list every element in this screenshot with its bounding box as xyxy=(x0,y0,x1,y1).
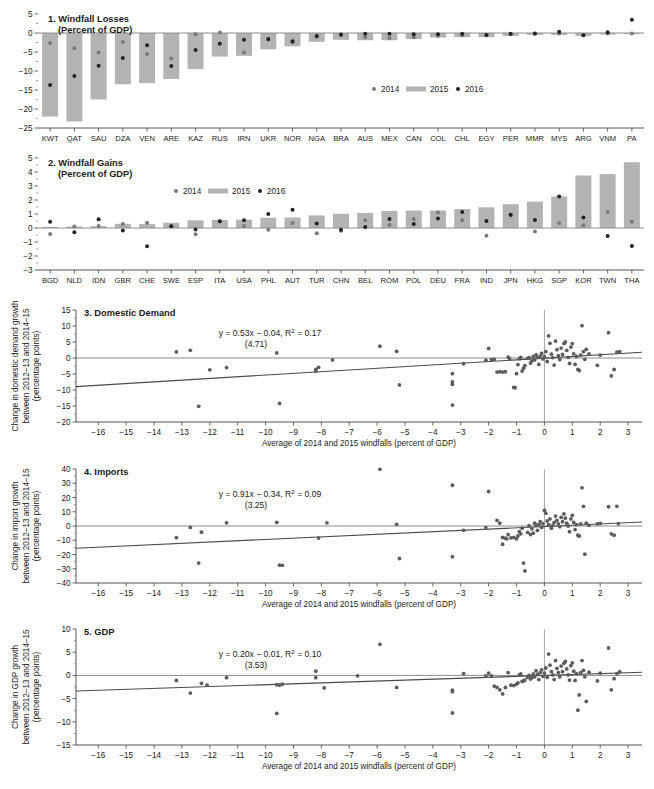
scatter-point xyxy=(451,483,455,487)
scatter-point xyxy=(501,692,505,696)
regression-equation: y = 0.91x − 0.34, R2 = 0.09 xyxy=(219,488,322,500)
y-tick-label: −10 xyxy=(57,718,71,727)
panel-3-domestic-demand: 151050−5−10−15−20−16−15−14−13−12−11−10−9… xyxy=(0,298,654,456)
x-tick-label: −2 xyxy=(484,751,494,760)
marker-2014 xyxy=(291,221,295,225)
scatter-point xyxy=(188,348,192,352)
marker-2016 xyxy=(97,217,101,221)
scatter-point xyxy=(506,533,510,537)
scatter-point xyxy=(595,363,599,367)
chart-4: 403020100−10−20−30−40−16−15−14−13−12−11−… xyxy=(0,457,654,617)
marker-2014 xyxy=(194,232,198,236)
scatter-point xyxy=(569,345,573,349)
scatter-point xyxy=(563,516,567,520)
scatter-point xyxy=(563,660,567,664)
panel-1-windfall-losses: 50−5−10−15−20−25KWTQATSAUDZAVENAREKAZRUS… xyxy=(0,8,654,148)
legend: 201420152016 xyxy=(372,85,484,94)
x-axis-title: Average of 2014 and 2015 windfalls (perc… xyxy=(262,762,456,771)
category-label: USA xyxy=(236,276,253,285)
regression-equation: y = 0.20x − 0.01, R2 = 0.10 xyxy=(219,648,322,660)
scatter-point xyxy=(513,386,517,390)
scatter-point xyxy=(575,672,579,676)
y-tick-label: 0 xyxy=(28,29,33,38)
marker-2014 xyxy=(242,50,246,54)
scatter-point xyxy=(551,356,555,360)
scatter-point xyxy=(566,355,570,359)
scatter-point xyxy=(530,527,534,531)
marker-2016 xyxy=(218,42,222,46)
scatter-point xyxy=(616,522,620,526)
bar xyxy=(42,33,58,117)
x-tick-label: −3 xyxy=(456,589,466,598)
x-tick-label: 2 xyxy=(598,589,603,598)
scatter-point xyxy=(537,678,541,682)
scatter-point xyxy=(547,334,551,338)
scatter-point xyxy=(559,516,563,520)
scatter-point xyxy=(577,693,581,697)
scatter-point xyxy=(508,357,512,361)
chart-2: 543210−1−2−3BGDNLDIDNGBRCHESWEESPITAUSAP… xyxy=(0,152,654,294)
y-tick-label: 10 xyxy=(61,625,71,634)
scatter-point xyxy=(275,351,279,355)
scatter-point xyxy=(544,350,548,354)
category-label: BGD xyxy=(42,276,59,285)
scatter-point xyxy=(609,688,613,692)
marker-2014 xyxy=(412,217,416,221)
marker-2016 xyxy=(218,219,222,223)
marker-2016 xyxy=(266,212,270,216)
scatter-point xyxy=(575,523,579,527)
marker-2016 xyxy=(509,32,513,36)
y-tick-label: 30 xyxy=(61,479,71,488)
scatter-point xyxy=(317,536,321,540)
marker-2014 xyxy=(266,228,270,232)
category-label: AUT xyxy=(285,276,301,285)
y-tick-label: 0 xyxy=(66,671,71,680)
scatter-point xyxy=(554,339,558,343)
scatter-point xyxy=(565,348,569,352)
scatter-point xyxy=(378,642,382,646)
category-label: TWN xyxy=(599,276,616,285)
scatter-point xyxy=(533,358,537,362)
marker-2014 xyxy=(242,224,246,228)
marker-2016 xyxy=(169,64,173,68)
category-label: COL xyxy=(430,134,446,143)
scatter-point xyxy=(580,486,584,490)
scatter-point xyxy=(572,352,576,356)
scatter-point xyxy=(595,679,599,683)
scatter-point xyxy=(561,520,565,524)
y-tick-label: −3 xyxy=(23,266,33,275)
marker-2016 xyxy=(121,229,125,233)
x-tick-label: −2 xyxy=(484,589,494,598)
y-tick-label: −25 xyxy=(19,124,33,133)
x-tick-label: −3 xyxy=(456,428,466,437)
marker-2016 xyxy=(630,18,634,22)
marker-2016 xyxy=(581,216,585,220)
marker-2016 xyxy=(145,244,149,248)
scatter-point xyxy=(541,522,545,526)
x-tick-label: −1 xyxy=(512,428,522,437)
scatter-point xyxy=(544,666,548,670)
scatter-point xyxy=(314,669,318,673)
x-tick-label: −13 xyxy=(175,428,189,437)
y-tick-label: −20 xyxy=(57,551,71,560)
y-tick-label: −10 xyxy=(57,386,71,395)
category-label: CHL xyxy=(455,134,470,143)
x-tick-label: −11 xyxy=(231,428,245,437)
marker-2016 xyxy=(121,56,125,60)
x-tick-label: −12 xyxy=(203,589,217,598)
scatter-point xyxy=(570,661,574,665)
scatter-point xyxy=(570,342,574,346)
marker-2014 xyxy=(72,225,76,229)
x-tick-label: −7 xyxy=(345,428,355,437)
marker-2014 xyxy=(48,41,52,45)
panel-title: 2. Windfall Gains xyxy=(48,158,123,168)
marker-2016 xyxy=(97,64,101,68)
scatter-point xyxy=(519,532,523,536)
scatter-point xyxy=(569,517,573,521)
marker-2016 xyxy=(291,40,295,44)
x-tick-label: 2 xyxy=(598,428,603,437)
y-tick-label: 15 xyxy=(61,306,71,315)
scatter-point xyxy=(174,536,178,540)
y-axis-title-line: Change in import growth xyxy=(11,481,20,571)
scatter-point xyxy=(573,528,577,532)
